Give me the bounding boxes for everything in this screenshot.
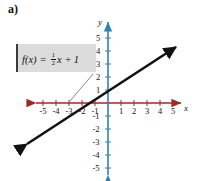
- formula-lhs: f(x): [22, 54, 37, 65]
- y-tick-label--5: -5: [88, 163, 104, 173]
- x-tick-label-2: 2: [127, 106, 141, 116]
- formula-fraction: 1 2: [51, 52, 56, 66]
- fraction-denominator: 2: [51, 59, 56, 67]
- x-tick-label-1: 1: [114, 106, 128, 116]
- y-tick-label--3: -3: [88, 137, 104, 147]
- x-tick-label--4: -4: [49, 106, 63, 116]
- y-tick-label-5: 5: [92, 33, 104, 43]
- x-tick-label--5: -5: [36, 106, 50, 116]
- formula-constant: 1: [74, 54, 79, 65]
- y-tick-label-1: 1: [92, 85, 104, 95]
- x-tick-label-3: 3: [140, 106, 154, 116]
- formula-equals: =: [37, 54, 50, 65]
- y-tick-label--1: -1: [88, 111, 104, 121]
- y-tick-label-3: 3: [92, 59, 104, 69]
- x-tick-label-4: 4: [153, 106, 167, 116]
- x-axis-name: x: [184, 103, 188, 113]
- formula-plus: +: [62, 54, 74, 65]
- x-tick-label--3: -3: [62, 106, 76, 116]
- y-tick-label--4: -4: [88, 150, 104, 160]
- y-axis-name: y: [98, 17, 102, 27]
- figure-container: a): [0, 0, 200, 181]
- callout-leader-line: [70, 74, 93, 101]
- y-tick-label--2: -2: [88, 124, 104, 134]
- y-tick-label-2: 2: [92, 72, 104, 82]
- formula-label: f(x) = 1 2 x + 1: [22, 49, 98, 69]
- x-tick-label--2: -2: [75, 106, 89, 116]
- x-tick-label-5: 5: [166, 106, 180, 116]
- y-tick-label-4: 4: [92, 46, 104, 56]
